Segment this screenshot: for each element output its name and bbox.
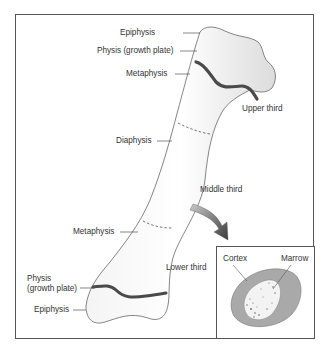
label-lower-third: Lower third [166, 263, 207, 273]
label-marrow: Marrow [281, 254, 308, 264]
label-upper-third: Upper third [242, 104, 283, 114]
label-physis-bottom: Physis [27, 274, 51, 284]
label-metaphysis-top: Metaphysis [126, 69, 167, 79]
cross-section-inset: Cortex Marrow [216, 246, 315, 339]
label-epiphysis-top: Epiphysis [120, 28, 155, 38]
label-metaphysis-bottom: Metaphysis [73, 227, 114, 237]
label-physis-top: Physis (growth plate) [97, 46, 173, 56]
label-growth-plate-bottom: (growth plate) [27, 284, 77, 294]
label-diaphysis: Diaphysis [116, 136, 152, 146]
label-epiphysis-bottom: Epiphysis [34, 305, 69, 315]
label-middle-third: Middle third [200, 185, 242, 195]
label-cortex: Cortex [223, 254, 247, 264]
arrow-icon [190, 204, 228, 240]
